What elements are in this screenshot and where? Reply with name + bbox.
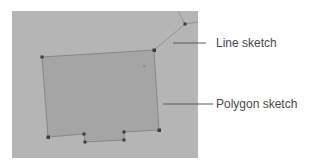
- vertex-handle[interactable]: [153, 49, 157, 53]
- sketch-canvas: [0, 0, 309, 164]
- vertex-handle[interactable]: [83, 133, 86, 136]
- vertex-handle[interactable]: [184, 23, 187, 26]
- vertex-handle[interactable]: [158, 129, 162, 133]
- vertex-handle[interactable]: [47, 136, 51, 140]
- line-sketch-label: Line sketch: [216, 36, 277, 50]
- vertex-handle[interactable]: [41, 56, 44, 59]
- polygon-sketch[interactable]: [42, 50, 159, 142]
- polygon-sketch-label: Polygon sketch: [216, 97, 297, 111]
- vertex-handle[interactable]: [123, 131, 126, 134]
- vertex-handle[interactable]: [123, 139, 126, 142]
- vertex-handle[interactable]: [84, 141, 87, 144]
- stray-point: [143, 65, 146, 68]
